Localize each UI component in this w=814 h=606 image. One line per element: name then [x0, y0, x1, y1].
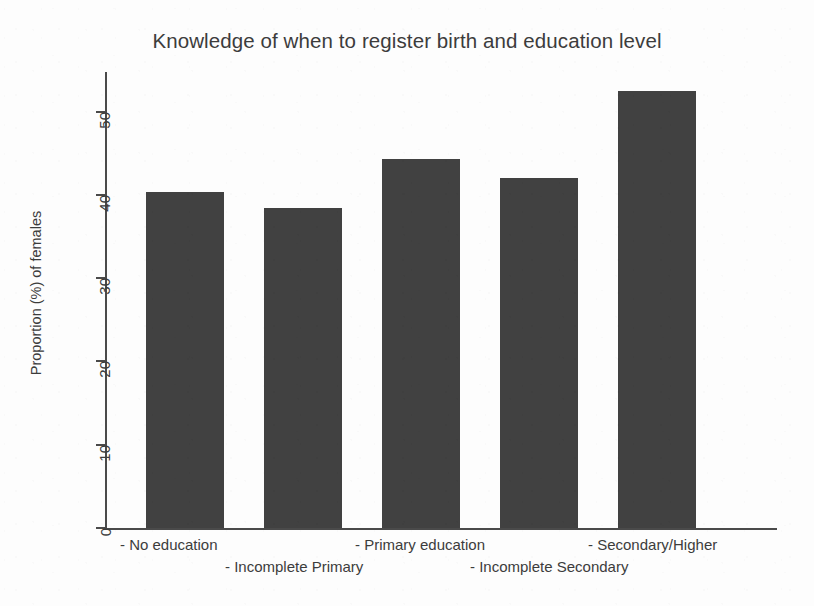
x-axis-label: - Secondary/Higher — [588, 537, 717, 552]
y-axis-tick-label: 10 — [97, 445, 112, 462]
chart-figure: Knowledge of when to register birth and … — [0, 0, 814, 606]
bar — [264, 208, 342, 528]
y-axis-tick-label: 40 — [97, 195, 112, 212]
bar — [618, 91, 696, 528]
y-axis-tick-label: 0 — [97, 528, 112, 536]
y-axis-tick-label: 50 — [97, 112, 112, 129]
y-axis-title: Proportion (%) of females — [28, 163, 44, 423]
y-axis-tick-label: 20 — [97, 361, 112, 378]
x-axis-label: - Incomplete Primary — [225, 559, 363, 574]
x-axis-label: - Incomplete Secondary — [470, 559, 628, 574]
y-axis-tick: 20 — [105, 360, 106, 362]
bar — [500, 178, 578, 528]
y-axis-tick: 30 — [105, 277, 106, 279]
page-title: Knowledge of when to register birth and … — [0, 29, 814, 53]
bar — [382, 159, 460, 528]
x-axis-label: - Primary education — [355, 537, 485, 552]
y-axis-tick: 40 — [105, 194, 106, 196]
y-axis-tick: 10 — [105, 444, 106, 446]
y-axis-tick: 50 — [105, 111, 106, 113]
y-axis-tick: 0 — [105, 527, 106, 529]
x-axis-label: - No education — [120, 537, 218, 552]
x-axis-line — [105, 528, 777, 530]
y-axis-tick-label: 30 — [97, 278, 112, 295]
plot-area: 01020304050 — [105, 70, 777, 530]
bar — [146, 192, 224, 528]
